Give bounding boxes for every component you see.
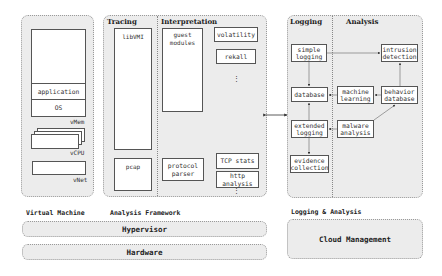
hypervisor-bar: Hypervisor bbox=[22, 221, 267, 237]
cloud-management-box: Cloud Management bbox=[287, 219, 423, 259]
hardware-bar: Hardware bbox=[22, 244, 267, 260]
